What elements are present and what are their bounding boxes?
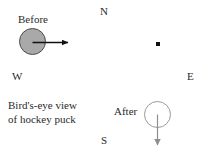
caption-line-1: Bird's-eye view [8,98,77,112]
figure-caption: Bird's-eye view of hockey puck [8,98,77,126]
compass-label-east: E [187,71,194,83]
after-label: After [114,106,137,118]
compass-label-west: W [12,71,22,83]
compass-label-north: N [100,6,108,18]
before-puck-circle [19,28,46,55]
after-puck-circle [144,101,171,128]
compass-label-south: S [101,135,107,147]
reference-point-dot [156,42,160,46]
caption-line-2: of hockey puck [8,112,77,126]
before-label: Before [18,14,48,26]
hockey-puck-diagram: N W E S Before After Bird's-eye view of … [0,0,206,161]
